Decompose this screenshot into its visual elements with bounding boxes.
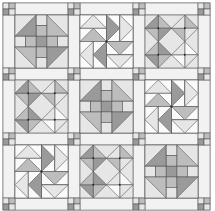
sashing-strip [80,68,133,80]
sashing-strip [15,198,68,210]
quilt-block-churn-dash [145,145,198,198]
quilt-block-diamond-star [15,80,68,133]
sashing-strip [145,3,198,15]
sashing-strip [145,133,198,145]
cornerstone [198,68,210,80]
cornerstone [3,68,15,80]
cornerstone [68,3,80,15]
quilt-block-pinwheel [145,80,198,133]
sashing-strip [3,15,15,68]
cornerstone [198,198,210,210]
sashing-strip [3,80,15,133]
quilt-pattern [0,0,215,211]
sashing-strip [15,68,68,80]
sashing-strip [198,145,210,198]
cornerstone [68,198,80,210]
sashing-strip [198,80,210,133]
cornerstone [3,3,15,15]
sashing-strip [68,80,80,133]
cornerstone [133,198,145,210]
cornerstone [133,133,145,145]
sashing-strip [68,15,80,68]
sashing-strip [145,198,198,210]
sashing-strip [80,3,133,15]
sashing-strip [15,133,68,145]
cornerstone [198,133,210,145]
quilt-block-pinwheel [80,15,133,68]
sashing-strip [3,145,15,198]
sashing-strip [145,68,198,80]
sashing-strip [198,15,210,68]
cornerstone [3,198,15,210]
quilt-block-diamond-star [145,15,198,68]
quilt-block-diamond-star [80,145,133,198]
sashing-strip [80,133,133,145]
cornerstone [68,133,80,145]
sashing-strip [133,80,145,133]
sashing-strip [15,3,68,15]
sashing-strip [133,145,145,198]
cornerstone [133,3,145,15]
cornerstone [3,133,15,145]
sashing-strip [68,145,80,198]
sashing-strip [133,15,145,68]
cornerstone [133,68,145,80]
quilt-block-churn-dash [15,15,68,68]
cornerstone [198,3,210,15]
quilt-block-pinwheel [15,145,68,198]
sashing-strip [80,198,133,210]
cornerstone [68,68,80,80]
quilt-block-churn-dash [80,80,133,133]
